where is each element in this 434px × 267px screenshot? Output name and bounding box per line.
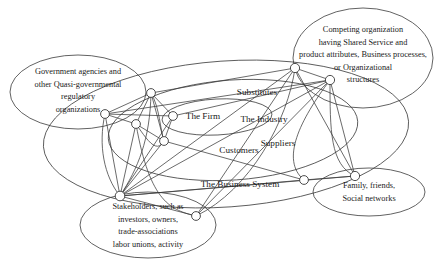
link-government-firm-left bbox=[105, 114, 136, 124]
curved-links-layer bbox=[102, 68, 355, 216]
label-line: trade-associations bbox=[118, 227, 177, 236]
node-firm-center[interactable] bbox=[169, 112, 178, 121]
link-government-stakeholders bbox=[105, 114, 120, 196]
node-business-system-lower[interactable] bbox=[192, 212, 201, 221]
competing-organization-ellipse-label: Competing organizationhaving Shared Serv… bbox=[299, 25, 427, 84]
label-line: structures bbox=[347, 75, 379, 84]
business-system-diagram: Government agencies andother Quasi-gover… bbox=[0, 0, 434, 267]
label-line: investors, owners, bbox=[118, 215, 178, 224]
labels-layer: Government agencies andother Quasi-gover… bbox=[35, 25, 427, 249]
the-firm-ellipse-label: The Firm bbox=[186, 111, 220, 121]
label-line: organizations bbox=[56, 105, 101, 114]
links-layer bbox=[105, 68, 355, 216]
label-line: Government agencies and bbox=[35, 67, 122, 76]
label-line: Competing organization bbox=[323, 25, 404, 34]
label-line: Social networks bbox=[342, 194, 395, 203]
stakeholders-ellipse-label: Stakeholders, such asinvestors, owners,t… bbox=[112, 202, 184, 249]
diagram-root: Government agencies andother Quasi-gover… bbox=[0, 0, 434, 267]
suppliers-label: Suppliers bbox=[261, 138, 296, 148]
node-government-link[interactable] bbox=[101, 110, 110, 119]
link-bs-competing-right bbox=[196, 80, 330, 216]
link-customer-family bbox=[304, 176, 355, 180]
label-line: Stakeholders, such as bbox=[112, 202, 183, 211]
the-industry-ellipse-label: The Industry bbox=[240, 114, 288, 124]
family-friends-ellipse-label: Family, friends,Social networks bbox=[342, 181, 395, 203]
node-firm-left[interactable] bbox=[132, 120, 141, 129]
label-line: regulatory bbox=[61, 92, 96, 101]
label-line: other Quasi-governmental bbox=[35, 80, 123, 89]
label-line: labor unions, activity bbox=[113, 240, 184, 249]
node-competing-left[interactable] bbox=[290, 63, 299, 72]
node-customer-right[interactable] bbox=[300, 176, 309, 185]
government-agencies-ellipse-label: Government agencies andother Quasi-gover… bbox=[35, 67, 123, 114]
link-center-stakeholders bbox=[120, 116, 173, 196]
node-stakeholder-hub[interactable] bbox=[115, 191, 125, 201]
link-competing-right-family bbox=[330, 80, 355, 176]
node-firm-lower[interactable] bbox=[160, 137, 169, 146]
curve-stakeholder-arc bbox=[120, 93, 151, 196]
node-firm-upper[interactable] bbox=[147, 89, 156, 98]
label-line: product attributes, Business processes, bbox=[299, 50, 427, 59]
label-line: having Shared Service and bbox=[319, 38, 409, 47]
node-family-link[interactable] bbox=[350, 171, 359, 180]
curve-right-sweep bbox=[293, 80, 330, 180]
customers-label: Customers bbox=[219, 145, 259, 155]
the-business-system-ellipse-label: The Business System bbox=[201, 179, 280, 189]
link-government-competing bbox=[105, 80, 330, 114]
the-industry-ellipse[interactable] bbox=[105, 71, 361, 188]
label-line: Family, friends, bbox=[343, 181, 395, 190]
family-friends-ellipse[interactable] bbox=[313, 168, 425, 216]
label-line: or Organizational bbox=[334, 63, 393, 72]
substitutes-label: Substitutes bbox=[237, 87, 278, 97]
link-government-firm bbox=[105, 114, 173, 116]
node-competing-right[interactable] bbox=[325, 75, 334, 84]
